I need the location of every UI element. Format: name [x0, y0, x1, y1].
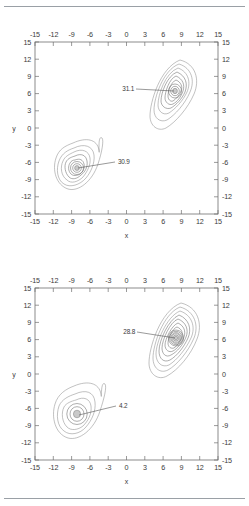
- svg-text:3: 3: [222, 352, 226, 361]
- panel-2-xticklabels-top: -15 -12 -9 -6 -3 0 3 6 9 12 15: [30, 276, 222, 285]
- svg-text:-15: -15: [30, 30, 40, 39]
- panel-1-svg: -15 -12 -9 -6 -3 0 3 6 9 12 15 -15: [0, 12, 249, 252]
- svg-text:-9: -9: [222, 421, 228, 430]
- panel-1-axes: -15 -12 -9 -6 -3 0 3 6 9 12 15 -15: [12, 30, 232, 239]
- panel-2-yticklabels-left: 15 12 9 6 3 0 -3 -6 -9 -12 -15: [21, 284, 31, 465]
- svg-text:15: 15: [23, 38, 31, 47]
- svg-text:0: 0: [27, 370, 31, 379]
- panel-2-yticklabels-right: 15 12 9 6 3 0 -3 -6 -9 -12 -15: [222, 284, 232, 465]
- panel-1-frame: [35, 42, 218, 214]
- svg-text:-6: -6: [222, 158, 228, 167]
- panel-1-contour-peak-upper-right: [150, 60, 197, 129]
- svg-text:-9: -9: [69, 463, 75, 472]
- svg-text:9: 9: [222, 72, 226, 81]
- svg-text:12: 12: [23, 301, 31, 310]
- svg-text:-12: -12: [48, 30, 58, 39]
- panel-2-contour-peak-upper-right: [149, 303, 199, 378]
- svg-text:-15: -15: [30, 217, 40, 226]
- svg-text:-6: -6: [87, 217, 93, 226]
- contour-panel-2: -15 -12 -9 -6 -3 0 3 6 9 12 15 -15: [0, 258, 249, 498]
- panel-1-xaxis-title: x: [125, 232, 129, 239]
- svg-text:-6: -6: [87, 276, 93, 285]
- panel-2-annotation-upper-right: 28.8: [123, 328, 175, 338]
- svg-text:0: 0: [222, 370, 226, 379]
- svg-text:12: 12: [196, 276, 204, 285]
- panel-2-xaxis-title: x: [125, 478, 129, 485]
- bottom-divider-rule: [4, 498, 245, 499]
- svg-text:-15: -15: [21, 456, 31, 465]
- svg-text:9: 9: [222, 318, 226, 327]
- svg-text:-9: -9: [25, 175, 31, 184]
- svg-text:-9: -9: [222, 175, 228, 184]
- svg-text:-3: -3: [105, 217, 111, 226]
- svg-text:0: 0: [125, 217, 129, 226]
- svg-text:-6: -6: [222, 404, 228, 413]
- svg-text:9: 9: [179, 217, 183, 226]
- svg-text:3: 3: [143, 276, 147, 285]
- svg-text:-6: -6: [87, 463, 93, 472]
- svg-text:0: 0: [222, 124, 226, 133]
- svg-text:3: 3: [143, 30, 147, 39]
- svg-text:9: 9: [27, 318, 31, 327]
- svg-text:6: 6: [161, 30, 165, 39]
- svg-text:3: 3: [143, 217, 147, 226]
- panel-2-annotation-lower-left: 4.2: [79, 402, 128, 415]
- panel-1-yticklabels-right: 15 12 9 6 3 0 -3 -6 -9 -12 -15: [222, 38, 232, 219]
- svg-text:6: 6: [222, 335, 226, 344]
- svg-text:15: 15: [214, 217, 222, 226]
- svg-text:-12: -12: [48, 217, 58, 226]
- svg-text:9: 9: [179, 276, 183, 285]
- svg-text:0: 0: [125, 463, 129, 472]
- svg-text:6: 6: [27, 89, 31, 98]
- svg-text:-3: -3: [105, 463, 111, 472]
- svg-text:3: 3: [143, 463, 147, 472]
- svg-text:0: 0: [27, 124, 31, 133]
- panel-2-axes: -15 -12 -9 -6 -3 0 3 6 9 12 15 -15: [12, 276, 232, 485]
- svg-text:9: 9: [27, 72, 31, 81]
- panel-1-peak-label-2: 30.9: [118, 158, 130, 165]
- panel-2-tickmarks: [35, 288, 218, 460]
- svg-text:6: 6: [161, 276, 165, 285]
- panel-1-yaxis-title: y: [12, 125, 16, 133]
- svg-text:9: 9: [179, 463, 183, 472]
- panel-1-plot-area: -15 -12 -9 -6 -3 0 3 6 9 12 15 -15: [0, 12, 249, 252]
- svg-text:3: 3: [27, 352, 31, 361]
- svg-text:-6: -6: [25, 404, 31, 413]
- svg-text:-6: -6: [87, 30, 93, 39]
- svg-text:12: 12: [196, 217, 204, 226]
- svg-text:-9: -9: [25, 421, 31, 430]
- svg-text:-12: -12: [48, 463, 58, 472]
- svg-text:15: 15: [214, 463, 222, 472]
- svg-text:-3: -3: [25, 141, 31, 150]
- panel-1-peak-label-1: 31.1: [122, 85, 134, 92]
- svg-text:6: 6: [27, 335, 31, 344]
- svg-text:-3: -3: [105, 276, 111, 285]
- panel-2-xticklabels-bottom: -15 -12 -9 -6 -3 0 3 6 9 12 15: [30, 463, 222, 472]
- svg-text:12: 12: [196, 463, 204, 472]
- contour-panel-1: -15 -12 -9 -6 -3 0 3 6 9 12 15 -15: [0, 12, 249, 252]
- svg-text:-15: -15: [222, 456, 232, 465]
- panel-2-peak-label-1: 28.8: [123, 328, 135, 335]
- panel-2-svg: -15 -12 -9 -6 -3 0 3 6 9 12 15 -15: [0, 258, 249, 498]
- svg-text:-12: -12: [21, 438, 31, 447]
- svg-text:6: 6: [161, 463, 165, 472]
- svg-text:3: 3: [27, 106, 31, 115]
- svg-text:-3: -3: [105, 30, 111, 39]
- figure-page: -15 -12 -9 -6 -3 0 3 6 9 12 15 -15: [0, 0, 249, 506]
- svg-text:12: 12: [222, 301, 230, 310]
- svg-text:-3: -3: [25, 387, 31, 396]
- svg-text:0: 0: [125, 30, 129, 39]
- svg-text:0: 0: [125, 276, 129, 285]
- top-divider-rule: [4, 6, 245, 7]
- svg-text:-15: -15: [30, 276, 40, 285]
- svg-text:15: 15: [222, 38, 230, 47]
- svg-text:15: 15: [222, 284, 230, 293]
- svg-text:15: 15: [23, 284, 31, 293]
- svg-text:3: 3: [222, 106, 226, 115]
- svg-text:-9: -9: [69, 217, 75, 226]
- panel-1-yticklabels-left: 15 12 9 6 3 0 -3 -6 -9 -12 -15: [21, 38, 31, 219]
- svg-text:-12: -12: [48, 276, 58, 285]
- svg-text:-9: -9: [69, 276, 75, 285]
- panel-1-contour-peak-lower-left: [55, 138, 103, 190]
- svg-text:9: 9: [179, 30, 183, 39]
